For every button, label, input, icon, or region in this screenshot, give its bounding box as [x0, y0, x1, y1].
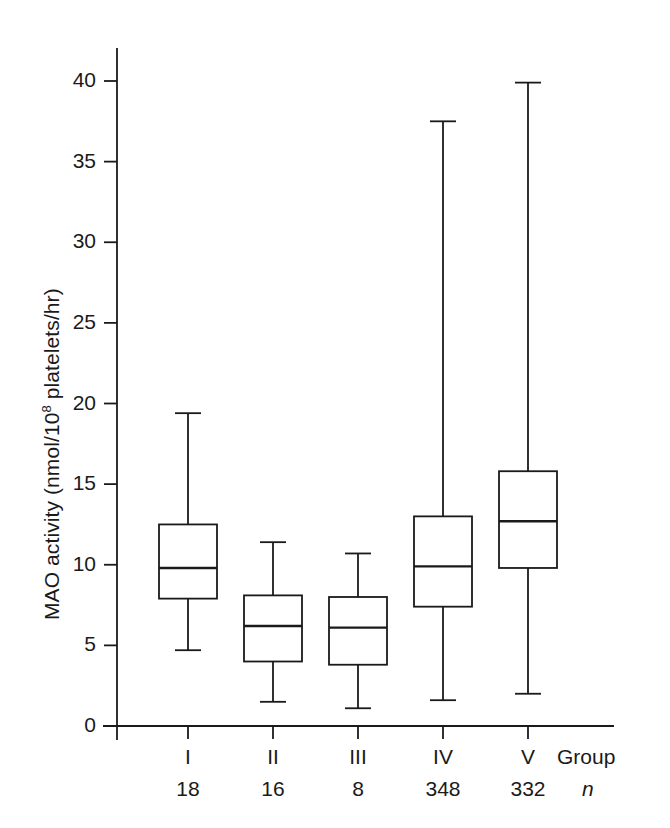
box-plot-III	[329, 553, 387, 708]
box-II	[244, 595, 302, 661]
box-plot-figure	[0, 0, 670, 828]
box-plot-I	[159, 413, 217, 650]
x-tick-marks	[188, 726, 528, 739]
box-IV	[414, 516, 472, 606]
y-tick-marks	[104, 81, 117, 726]
box-plot-IV	[414, 121, 472, 700]
box-III	[329, 597, 387, 665]
box-I	[159, 524, 217, 598]
box-plot-II	[244, 542, 302, 702]
box-plot-V	[499, 83, 557, 694]
box-plot-canvas	[0, 0, 670, 828]
box-V	[499, 471, 557, 568]
